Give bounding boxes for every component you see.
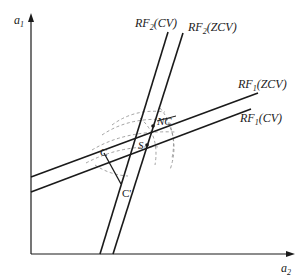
- reaction-function-diagram: a1 a2 RF2(CV) RF2(ZCV) RF1(ZCV) RF1(CV) …: [0, 0, 307, 277]
- x-axis-label: a2: [281, 261, 291, 277]
- s-dot: [145, 143, 149, 147]
- x-axis-arrow-icon: [286, 251, 295, 257]
- axes: [28, 13, 295, 257]
- rf1-cv-label: RF1(CV): [239, 111, 282, 127]
- reaction-lines: [31, 32, 258, 254]
- rf1-zcv-label: RF1(ZCV): [237, 77, 287, 93]
- rf2-zcv-label: RF2(ZCV): [187, 20, 237, 36]
- rf2-cv-line: [100, 32, 168, 254]
- c-prime-label: C': [122, 187, 131, 199]
- y-axis-label: a1: [14, 13, 24, 29]
- rf1-zcv-line: [31, 93, 258, 177]
- nc-label: NC: [156, 115, 172, 127]
- s-label: S: [138, 139, 144, 151]
- rf2-cv-label: RF2(CV): [134, 16, 177, 32]
- isoprofit-arc: [86, 147, 160, 163]
- c-label: C: [100, 146, 107, 158]
- y-axis-arrow-icon: [28, 13, 34, 22]
- nc-dot: [151, 124, 155, 128]
